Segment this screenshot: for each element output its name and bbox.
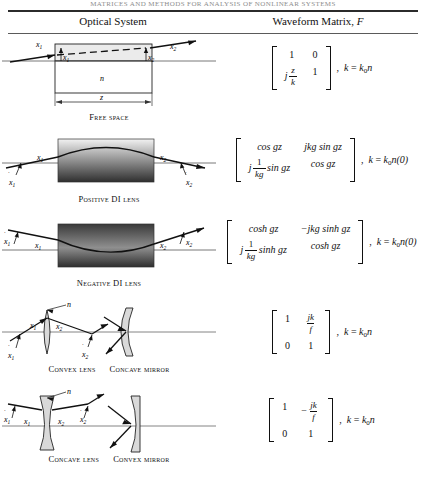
column-header-waveform-matrix: Waveform Matrix, F <box>218 15 418 27</box>
matrix-negative-di-lens: cosh gz −jkg sinh gz j1kgsinh gz cosh gz… <box>218 218 426 264</box>
matrix-cell-m11: cosh gz <box>233 220 293 237</box>
matrix-cell-m12: −jkf <box>294 398 327 425</box>
matrix-bracket: cos gz jkg sin gz j1kgsin gz cos gz <box>236 138 355 182</box>
caption-free-space: Free space <box>0 112 218 122</box>
table-row: n x1 · x1 x2 x2 · Concave lens Convex mi… <box>0 384 426 472</box>
column-header-optical-system: Optical System <box>8 15 218 27</box>
running-head: MATRICES AND METHODS FOR ANALYSIS OF NON… <box>0 0 426 9</box>
svg-text:·: · <box>80 408 82 414</box>
matrix-positive-di-lens: cos gz jkg sin gz j1kgsin gz cos gz , k … <box>218 136 426 182</box>
svg-text:x2: x2 <box>159 241 167 251</box>
matrix-cell-m11: 1 <box>278 46 306 63</box>
matrix-bracket: 1 0 jzk 1 <box>272 46 331 90</box>
svg-text:·: · <box>8 170 10 176</box>
matrix-bracket: cosh gz −jkg sinh gz j1kgsinh gz cosh gz <box>227 220 363 264</box>
svg-text:·: · <box>8 343 10 349</box>
svg-text:x1: x1 <box>7 351 15 361</box>
svg-text:x2: x2 <box>147 53 155 63</box>
matrix-cell-m22: 1 <box>297 337 325 354</box>
matrix-bracket: 1 jkf 0 1 <box>272 310 331 354</box>
table-page: MATRICES AND METHODS FOR ANALYSIS OF NON… <box>0 0 426 477</box>
svg-text:x1: x1 <box>34 241 42 251</box>
negative-di-lens-svg: x1 · x1 x2 x2 · <box>0 214 218 280</box>
matrix-cell-m12: jkf <box>297 310 325 337</box>
svg-text:n: n <box>100 74 104 83</box>
svg-text:·: · <box>186 231 188 237</box>
table-header-rule <box>8 33 418 34</box>
matrix-condition: , k = k0n <box>334 326 372 339</box>
svg-text:·: · <box>4 230 6 236</box>
svg-text:n: n <box>67 387 71 396</box>
svg-text:n: n <box>67 300 71 309</box>
matrix-concave-lens: 1 −jkf 0 1 , k = k0n <box>218 396 426 442</box>
svg-text:x2: x2 <box>57 417 65 427</box>
column-header-waveform-matrix-text: Waveform Matrix, <box>272 15 356 27</box>
svg-text:x1: x1 <box>3 237 11 247</box>
svg-text:x1: x1 <box>36 153 44 163</box>
caption-concave-mirror: Concave mirror <box>110 364 170 374</box>
matrix-cell-m11: 1 <box>275 398 294 425</box>
svg-text:x1: x1 <box>3 415 11 425</box>
matrix-cell-m22: 1 <box>294 425 327 442</box>
svg-text:x1: x1 <box>8 178 16 188</box>
matrix-cell-m21: 0 <box>275 425 294 442</box>
matrix-cell-m21: j1kgsinh gz <box>233 237 293 264</box>
svg-text:x1: x1 <box>29 321 37 331</box>
table-row: x1 · x1 x2 x2 · Negative DI lens cosh gz… <box>0 214 426 294</box>
svg-text:x1: x1 <box>23 417 31 427</box>
caption-negative-di-lens: Negative DI lens <box>0 278 218 288</box>
matrix-condition: , k = k0n(0) <box>359 154 408 167</box>
diagram-convex-lens-concave-mirror: n x1 · x1 x2 x2 · Convex lens Concave mi… <box>0 298 218 380</box>
matrix-cell-m21: 0 <box>278 337 297 354</box>
matrix-cell-m22: cos gz <box>297 155 349 182</box>
matrix-convex-lens: 1 jkf 0 1 , k = k0n <box>218 308 426 354</box>
svg-text:x1: x1 <box>35 40 43 50</box>
table-row: x1 x1 · x2 · x2 n z Free space 1 <box>0 36 426 126</box>
svg-text:x2: x2 <box>159 153 167 163</box>
matrix-cell-m12: −jkg sinh gz <box>294 220 358 237</box>
matrix-cell-m22: 1 <box>306 63 325 90</box>
matrix-cell-m11: cos gz <box>242 138 297 155</box>
svg-text:·: · <box>4 408 6 414</box>
matrix-bracket: 1 −jkf 0 1 <box>269 398 333 442</box>
free-space-svg: x1 x1 · x2 · x2 n z <box>0 36 218 112</box>
svg-text:·: · <box>185 170 187 176</box>
matrix-condition: , k = k0n <box>335 62 373 75</box>
svg-text:·: · <box>82 342 84 348</box>
diagram-free-space: x1 x1 · x2 · x2 n z Free space <box>0 36 218 126</box>
convex-lens-concave-mirror-svg: n x1 · x1 x2 x2 · <box>0 298 218 366</box>
matrix-cell-m21: jzk <box>278 63 306 90</box>
matrix-free-space: 1 0 jzk 1 , k = k0n <box>218 44 426 90</box>
caption-convex-mirror: Convex mirror <box>113 454 169 464</box>
table-row: x1 · x1 x2 x2 · Positive DI lens cos gz … <box>0 130 426 210</box>
svg-text:z: z <box>99 93 104 102</box>
diagram-concave-lens-convex-mirror: n x1 · x1 x2 x2 · Concave lens Convex mi… <box>0 384 218 472</box>
diagram-negative-di-lens: x1 · x1 x2 x2 · Negative DI lens <box>0 214 218 294</box>
table-row: n x1 · x1 x2 x2 · Convex lens Concave mi… <box>0 298 426 380</box>
caption-concave-lens: Concave lens <box>49 454 100 464</box>
concave-lens-convex-mirror-svg: n x1 · x1 x2 x2 · <box>0 384 218 456</box>
column-header-waveform-matrix-symbol: F <box>357 15 364 27</box>
diagram-positive-di-lens: x1 · x1 x2 x2 · Positive DI lens <box>0 130 218 210</box>
table-top-rule <box>8 10 418 12</box>
positive-di-lens-svg: x1 · x1 x2 x2 · <box>0 130 218 196</box>
matrix-cell-m12: 0 <box>306 46 325 63</box>
matrix-condition: , k = k0n <box>337 414 375 427</box>
svg-text:x2: x2 <box>185 178 193 188</box>
matrix-cell-m21: j1kgsin gz <box>242 155 297 182</box>
svg-text:x2: x2 <box>79 415 87 425</box>
svg-text:x2: x2 <box>185 238 193 248</box>
caption-positive-di-lens: Positive DI lens <box>0 194 218 204</box>
caption-convex-lens: Convex lens <box>49 364 96 374</box>
matrix-cell-m22: cosh gz <box>294 237 358 264</box>
matrix-cell-m11: 1 <box>278 310 297 337</box>
svg-text:x2: x2 <box>81 350 89 360</box>
matrix-condition: , k = k0n(0) <box>367 236 416 249</box>
matrix-cell-m12: jkg sin gz <box>297 138 349 155</box>
